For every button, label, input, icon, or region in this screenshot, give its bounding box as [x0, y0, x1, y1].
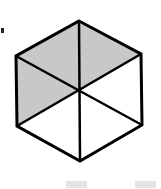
faint-mark-right — [135, 181, 156, 188]
sector-top-right — [79, 21, 141, 91]
hexagon-diagram — [0, 0, 161, 189]
faint-mark-left — [66, 181, 87, 188]
